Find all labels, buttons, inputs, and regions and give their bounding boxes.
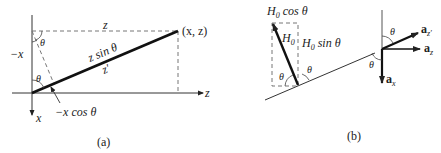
label-point-xz: (x, z) [182,24,207,38]
label-z-prime: z′ [99,61,112,77]
panel-a: z (x, z) −x θ θ z sin θ z′ −x cos θ x z … [10,15,210,149]
label-theta-top-right: θ [390,26,395,37]
caption-b: (b) [347,129,361,143]
projection-pointer-arrow [51,87,60,103]
label-theta-inner: θ [279,71,284,82]
coordinate-rotation-diagram: z (x, z) −x θ θ z sin θ z′ −x cos θ x z … [0,0,441,153]
label-h0-cos-theta: H0 cos θ [266,4,308,20]
label-theta-outer: θ [307,64,312,75]
theta-arc-inner [285,75,293,86]
az-prime-unit-vector [382,33,418,49]
label-theta-origin: θ [36,73,41,84]
theta-arc-top-right [382,36,393,43]
label-h0-sin-theta: H0 sin θ [301,36,341,52]
label-z-sin-theta: z sin θ [85,40,120,65]
label-h0: H0 [281,31,295,47]
label-a-z: az [424,41,434,57]
label-theta-bottom-right: θ [369,59,374,70]
label-neg-x-cos-theta: −x cos θ [55,105,96,119]
caption-a: (a) [97,135,110,149]
panel-b: H0 cos θ H0 H0 sin θ θ θ θ θ az′ az ax (… [265,4,434,143]
label-z-axis: z [204,86,210,100]
label-x-axis: x [35,111,42,125]
label-a-zprime: az′ [421,22,432,38]
label-z-top: z [102,18,108,32]
label-theta-top: θ [40,37,45,48]
label-a-x: ax [386,72,396,88]
label-neg-x: −x [10,47,24,61]
